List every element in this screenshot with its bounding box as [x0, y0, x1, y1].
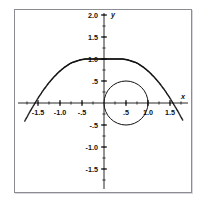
x-axis-name: x	[180, 92, 186, 101]
curve-point	[182, 119, 184, 121]
figure-root: -1.5-1.0-.5.51.01.52.01.51.0.5-.5-1.0-1.…	[0, 0, 204, 205]
labels-group: -1.5-1.0-.5.51.01.52.01.51.0.5-.5-1.0-1.…	[32, 10, 186, 174]
x-axis-tick-label: 1.5	[165, 108, 175, 117]
y-axis-tick-label: .5	[92, 77, 98, 86]
y-axis-name: y	[110, 10, 116, 19]
y-axis-tick-label: 1.0	[88, 55, 98, 64]
x-axis-tick-label: -1.5	[32, 108, 44, 117]
y-axis-tick-label: -1.0	[86, 143, 98, 152]
plot-canvas: -1.5-1.0-.5.51.01.52.01.51.0.5-.5-1.0-1.…	[0, 0, 204, 205]
x-axis-tick-label: .5	[123, 108, 129, 117]
x-axis-tick-label: 1.0	[143, 108, 153, 117]
y-axis-tick-label: -.5	[90, 121, 98, 130]
x-axis-tick-label: -1.0	[54, 108, 66, 117]
y-axis-tick-label: -1.5	[86, 165, 98, 174]
x-axis-tick-label: -.5	[78, 108, 86, 117]
y-axis-tick-label: 1.5	[88, 33, 98, 42]
y-axis-tick-label: 2.0	[88, 11, 98, 20]
axes-group	[18, 13, 188, 189]
